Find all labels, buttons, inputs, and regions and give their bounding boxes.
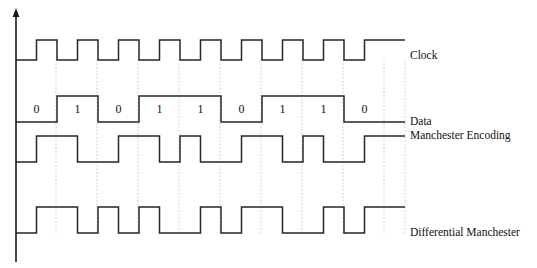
data-bit-labels: 010110110 bbox=[34, 102, 368, 116]
waveform-clock bbox=[16, 40, 405, 60]
data-bit-value: 1 bbox=[75, 102, 81, 116]
waveform-differential_manchester bbox=[16, 207, 405, 233]
data-bit-value: 0 bbox=[34, 102, 40, 116]
signal-label-data: Data bbox=[410, 115, 432, 127]
signal-waveforms bbox=[16, 40, 405, 233]
signal-name-labels: ClockDataManchester EncodingDifferential… bbox=[410, 49, 520, 238]
data-bit-value: 0 bbox=[362, 102, 368, 116]
data-bit-value: 1 bbox=[321, 102, 327, 116]
timing-diagram: 010110110 ClockDataManchester EncodingDi… bbox=[0, 0, 537, 268]
waveform-canvas: 010110110 ClockDataManchester EncodingDi… bbox=[0, 0, 537, 268]
signal-label-manchester: Manchester Encoding bbox=[410, 129, 511, 142]
data-bit-value: 1 bbox=[198, 102, 204, 116]
gridlines bbox=[56, 60, 405, 235]
data-bit-value: 0 bbox=[239, 102, 245, 116]
data-bit-value: 0 bbox=[116, 102, 122, 116]
signal-label-clock: Clock bbox=[410, 49, 438, 61]
waveform-manchester bbox=[16, 136, 405, 162]
signal-label-differential_manchester: Differential Manchester bbox=[410, 226, 520, 238]
data-bit-value: 1 bbox=[280, 102, 286, 116]
vertical-axis bbox=[13, 8, 20, 262]
axis-arrow-head bbox=[13, 8, 20, 17]
data-bit-value: 1 bbox=[157, 102, 163, 116]
